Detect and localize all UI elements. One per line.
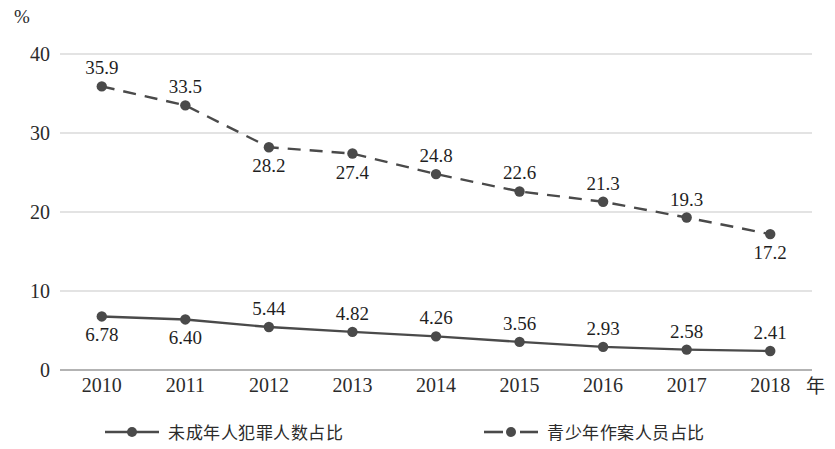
legend-label-series-1: 青少年作案人员占比 — [547, 419, 705, 444]
legend-item-series-0[interactable]: 未成年人犯罪人数占比 — [104, 419, 343, 444]
data-label-s0-7: 2.58 — [652, 321, 722, 343]
data-point-s1-4 — [431, 169, 441, 179]
data-point-s0-8 — [765, 346, 775, 356]
data-label-s1-1: 33.5 — [150, 76, 220, 98]
data-point-s1-8 — [765, 229, 775, 239]
data-label-s1-7: 19.3 — [652, 189, 722, 211]
data-label-s1-4: 24.8 — [401, 145, 471, 167]
data-label-s0-0: 6.78 — [67, 324, 137, 346]
data-point-s1-7 — [681, 212, 691, 222]
line-chart: % 年 010203040 20102011201220132014201520… — [0, 0, 835, 449]
data-point-s0-2 — [264, 322, 274, 332]
data-label-s0-5: 3.56 — [485, 313, 555, 335]
data-label-s0-4: 4.26 — [401, 307, 471, 329]
data-label-s0-3: 4.82 — [317, 303, 387, 325]
data-point-s1-0 — [97, 81, 107, 91]
data-label-s1-2: 28.2 — [234, 155, 304, 177]
data-point-s0-4 — [431, 331, 441, 341]
data-point-s0-5 — [514, 337, 524, 347]
data-point-s1-5 — [514, 186, 524, 196]
data-label-s1-6: 21.3 — [568, 173, 638, 195]
legend-label-series-0: 未成年人犯罪人数占比 — [168, 419, 343, 444]
data-point-s1-1 — [180, 100, 190, 110]
data-label-s1-0: 35.9 — [67, 57, 137, 79]
legend-swatch-dashed-icon — [483, 424, 539, 440]
data-label-s0-8: 2.41 — [735, 322, 805, 344]
legend-item-series-1[interactable]: 青少年作案人员占比 — [483, 419, 705, 444]
data-point-s0-6 — [598, 342, 608, 352]
data-label-s0-1: 6.40 — [150, 327, 220, 349]
data-point-s0-3 — [347, 327, 357, 337]
data-label-s1-8: 17.2 — [735, 242, 805, 264]
data-point-s0-7 — [681, 344, 691, 354]
data-label-s0-2: 5.44 — [234, 298, 304, 320]
data-point-s1-3 — [347, 148, 357, 158]
data-label-s1-5: 22.6 — [485, 162, 555, 184]
chart-legend: 未成年人犯罪人数占比 青少年作案人员占比 — [0, 415, 835, 449]
data-point-s1-2 — [264, 142, 274, 152]
data-point-s1-6 — [598, 197, 608, 207]
legend-swatch-solid-icon — [104, 424, 160, 440]
data-label-s1-3: 27.4 — [317, 162, 387, 184]
data-point-s0-0 — [97, 311, 107, 321]
data-point-s0-1 — [180, 314, 190, 324]
data-label-s0-6: 2.93 — [568, 318, 638, 340]
